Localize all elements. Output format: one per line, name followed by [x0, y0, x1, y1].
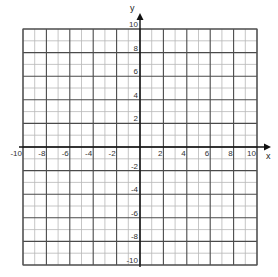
- y-tick-label: 2: [134, 114, 139, 123]
- y-tick-label: 6: [134, 67, 139, 76]
- x-tick-label: -6: [62, 149, 70, 158]
- x-tick-label: -10: [10, 149, 22, 158]
- x-tick-label: 6: [205, 149, 210, 158]
- y-tick-label: -8: [131, 232, 139, 241]
- x-tick-label: -4: [85, 149, 93, 158]
- y-tick-label: -10: [126, 256, 138, 265]
- y-tick-label: -6: [131, 209, 139, 218]
- x-tick-label: 2: [158, 149, 163, 158]
- y-tick-label: -4: [131, 185, 139, 194]
- x-tick-label: -8: [38, 149, 46, 158]
- y-tick-label: 4: [134, 91, 139, 100]
- coordinate-plane: -10-8-6-4-2246810 108642-2-4-6-8-10 x y: [0, 0, 278, 277]
- x-tick-label: 10: [247, 149, 256, 158]
- y-axis-arrow-icon: [137, 13, 144, 20]
- x-tick-label: 8: [228, 149, 233, 158]
- x-tick-label: -2: [108, 149, 116, 158]
- y-tick-label: -2: [131, 162, 139, 171]
- x-axis-arrow-icon: [264, 144, 271, 151]
- x-axis-label: x: [266, 151, 271, 161]
- x-tick-label: 4: [181, 149, 186, 158]
- x-tick-labels: -10-8-6-4-2246810: [10, 149, 256, 158]
- y-tick-label: 8: [134, 44, 139, 53]
- y-axis-label: y: [130, 3, 135, 13]
- y-tick-label: 10: [129, 20, 138, 29]
